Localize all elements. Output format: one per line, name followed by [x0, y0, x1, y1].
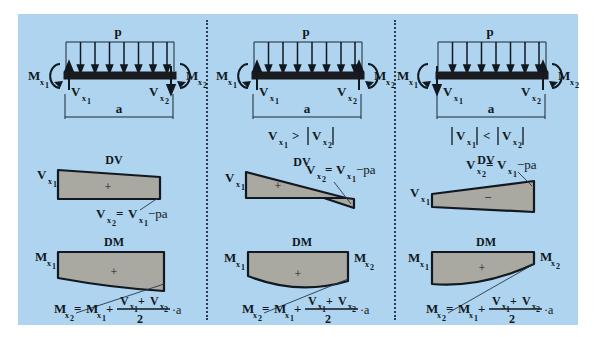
svg-text:1: 1	[275, 97, 279, 106]
svg-text:V: V	[492, 294, 501, 308]
svg-text:V: V	[259, 84, 269, 99]
svg-text:1: 1	[241, 183, 245, 192]
dv-title-left: DV	[105, 153, 123, 167]
moment-label-right-x1: M x 1	[397, 68, 418, 90]
dm-start-label-right: M x 1	[408, 250, 429, 272]
svg-text:V: V	[128, 206, 138, 221]
svg-text:·a: ·a	[544, 303, 554, 317]
svg-text:V: V	[522, 294, 531, 308]
svg-text:+: +	[106, 301, 113, 316]
dv-start-label-middle: V x 1	[225, 170, 245, 192]
dv-sign-left: +	[105, 180, 112, 194]
panel-right: p a M x 1 M x 2 V x 1 V	[394, 14, 578, 325]
svg-text:1: 1	[284, 141, 288, 150]
svg-text:x: x	[107, 216, 111, 225]
svg-text:2: 2	[556, 262, 560, 271]
load-arrows-right	[449, 42, 542, 73]
svg-text:x: x	[40, 78, 44, 87]
svg-text:V: V	[96, 206, 106, 221]
svg-text:1: 1	[425, 263, 429, 272]
svg-text:x: x	[139, 216, 143, 225]
svg-text:x: x	[198, 78, 202, 87]
shear-label-right-x2: V x 2	[149, 84, 169, 106]
dm-end-label-middle: M x 2	[354, 250, 374, 272]
svg-text:2: 2	[328, 141, 332, 150]
dm-end-label-right: M x 2	[540, 249, 560, 271]
load-label-left: p	[114, 24, 121, 39]
svg-text:x: x	[513, 138, 517, 147]
load-arrows-left	[77, 42, 170, 73]
svg-text:x: x	[228, 78, 232, 87]
svg-text:x: x	[532, 94, 536, 103]
svg-text:V: V	[336, 162, 346, 177]
svg-text:2: 2	[165, 97, 169, 106]
svg-text:1: 1	[87, 97, 91, 106]
svg-text:=: =	[486, 157, 493, 172]
dm-title-left: DM	[104, 235, 124, 249]
svg-text:V: V	[225, 170, 235, 185]
svg-text:x: x	[467, 138, 471, 147]
svg-text:x: x	[477, 167, 481, 176]
svg-text:x: x	[236, 260, 240, 269]
svg-text:+: +	[510, 294, 517, 308]
svg-text:x: x	[454, 94, 458, 103]
svg-text:1: 1	[53, 180, 57, 189]
svg-text:1: 1	[52, 262, 56, 271]
svg-text:+: +	[138, 294, 145, 308]
dm-formula-middle: M x 2 = M x 1 + V x 1 + V x 2 2	[242, 294, 370, 326]
svg-text:=: =	[262, 301, 269, 316]
svg-text:1: 1	[472, 141, 476, 150]
svg-text:x: x	[82, 94, 86, 103]
svg-text:=: =	[116, 206, 123, 221]
svg-text:V: V	[71, 84, 81, 99]
svg-text:x: x	[97, 311, 101, 320]
dv-formula-middle: V x 2 = V x 1 −pa	[306, 162, 376, 184]
svg-text:V: V	[337, 84, 347, 99]
svg-text:+: +	[478, 301, 485, 316]
dm-sign-left: +	[111, 265, 118, 279]
svg-text:V: V	[37, 167, 47, 182]
svg-text:x: x	[317, 172, 321, 181]
load-label-right: p	[486, 24, 493, 39]
svg-text:x: x	[47, 259, 51, 268]
svg-text:V: V	[456, 128, 466, 143]
svg-text:2: 2	[137, 312, 143, 326]
svg-text:V: V	[312, 128, 322, 143]
svg-text:M: M	[558, 68, 570, 83]
svg-text:x: x	[469, 311, 473, 320]
svg-text:x: x	[48, 177, 52, 186]
svg-text:x: x	[570, 78, 574, 87]
svg-text:1: 1	[426, 198, 430, 207]
svg-text:1: 1	[45, 81, 49, 90]
span-label-right: a	[488, 101, 495, 116]
svg-text:V: V	[521, 84, 531, 99]
beam-bar-left	[64, 72, 176, 79]
svg-text:x: x	[365, 260, 369, 269]
dv-formula-left: V x 2 = V x 1 −pa	[96, 206, 168, 228]
svg-text:x: x	[551, 259, 555, 268]
svg-text:·a: ·a	[172, 303, 182, 317]
svg-text:=: =	[74, 301, 81, 316]
panel-middle: p a M x 1 M x 2 V x 1 V	[206, 14, 394, 325]
panel-middle-drawing: p a M x 1 M x 2 V x 1 V	[206, 14, 394, 325]
svg-text:V: V	[308, 294, 317, 308]
svg-text:x: x	[386, 78, 390, 87]
svg-text:x: x	[409, 78, 413, 87]
svg-text:+: +	[326, 294, 333, 308]
svg-text:=: =	[325, 162, 332, 177]
shear-label-right-x2: V x 2	[521, 84, 541, 106]
moment-label-right-x2: M x 2	[186, 68, 207, 90]
svg-text:·a: ·a	[360, 303, 370, 317]
svg-text:x: x	[508, 167, 512, 176]
svg-text:M: M	[397, 68, 409, 83]
moment-label-right-x2: M x 2	[558, 68, 579, 90]
svg-text:x: x	[270, 94, 274, 103]
svg-text:x: x	[236, 180, 240, 189]
svg-text:V: V	[497, 157, 507, 172]
svg-text:1: 1	[233, 81, 237, 90]
dv-shape-middle-negative	[324, 198, 354, 208]
shear-label-middle-x1: V x 1	[259, 84, 279, 106]
svg-text:−pa: −pa	[356, 162, 376, 177]
svg-text:2: 2	[537, 97, 541, 106]
svg-text:x: x	[348, 94, 352, 103]
